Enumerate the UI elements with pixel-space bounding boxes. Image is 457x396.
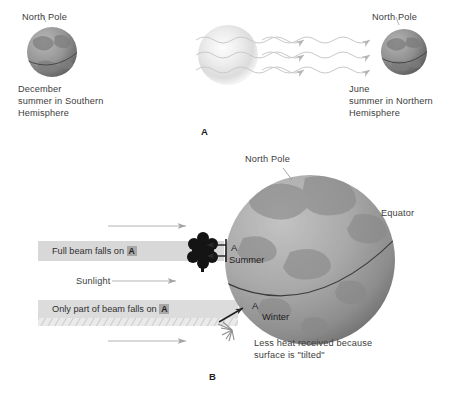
partial-beam-label-text: Only part of beam falls on [52,304,157,314]
north-pole-label-large-globe: North Pole [245,154,290,166]
caption-december-line2: summer in Southern [18,96,103,108]
caption-june-line3: Hemisphere [349,108,400,120]
full-beam-label-text: Full beam falls on [52,246,124,256]
tree-summer-icon [187,232,218,272]
surface-label-winter: Winter [262,311,289,322]
globe-december [26,15,78,77]
caption-june-line1: June [349,84,370,96]
seasons-diagram: North Pole December summer in Southern H… [0,0,457,396]
surface-label-summer: Summer [229,254,264,265]
full-beam-target-a: A [127,246,137,256]
sunlight-label: Sunlight [76,276,110,288]
full-beam-label: Full beam falls on A [52,246,137,256]
caption-june-line2: summer in Northern [349,96,433,108]
north-pole-label-december: North Pole [22,12,67,24]
surface-marker-winter-a: A [252,300,258,311]
sun-rays-right [262,37,370,73]
partial-beam-label: Only part of beam falls on A [52,304,169,314]
globe-june [381,17,429,75]
panel-a-letter: A [201,126,208,137]
partial-beam-target-a: A [159,304,169,314]
panel-a-graphics [0,0,457,396]
tilt-note-line2: surface is "tilted" [254,350,325,362]
tilt-note-line1: Less heat received because [254,338,372,350]
north-pole-label-june: North Pole [372,12,417,24]
caption-december-line3: Hemisphere [18,108,69,120]
caption-december-line1: December [18,84,62,96]
equator-label: Equator [381,208,414,220]
surface-marker-summer-a: A [231,242,237,253]
sun-icon [198,25,258,85]
panel-b-letter: B [209,371,216,382]
